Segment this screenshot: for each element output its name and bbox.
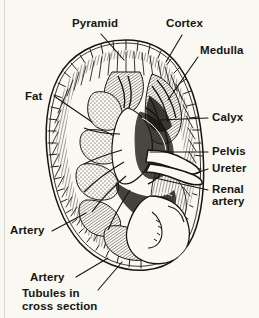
label-tubules-line1: Tubules in	[22, 287, 80, 300]
leader-tubules	[98, 262, 122, 290]
label-fat: Fat	[25, 90, 43, 103]
label-medulla: Medulla	[200, 44, 244, 57]
label-pelvis: Pelvis	[212, 145, 246, 158]
label-artery-upper: Artery	[10, 224, 44, 237]
leader-cortex	[166, 35, 182, 62]
leader-artery-lower	[76, 258, 108, 277]
label-calyx: Calyx	[212, 111, 243, 124]
kidney-body	[46, 40, 203, 270]
label-cortex: Cortex	[166, 17, 203, 30]
label-renal-artery-line2: artery	[212, 195, 245, 208]
label-artery-lower: Artery	[30, 271, 64, 284]
label-pyramid: Pyramid	[72, 17, 118, 30]
label-tubules-line2: cross section	[22, 300, 97, 313]
label-ureter: Ureter	[212, 162, 246, 175]
